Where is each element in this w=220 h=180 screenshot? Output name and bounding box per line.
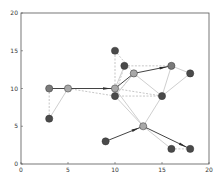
graph-node (111, 92, 118, 99)
x-tick-label: 0 (19, 166, 23, 173)
graph-node (140, 123, 147, 130)
light-edge (49, 89, 68, 119)
graph-node (64, 85, 71, 92)
arrow-head-icon (179, 143, 187, 148)
light-edge (115, 96, 143, 126)
graph-node (168, 145, 175, 152)
graph-node (187, 70, 194, 77)
graph-node (46, 115, 53, 122)
graph-node (130, 70, 137, 77)
x-tick-label: 10 (111, 166, 119, 173)
light-edge (115, 73, 134, 96)
y-tick-label: 20 (10, 9, 18, 16)
x-tick-label: 20 (205, 166, 213, 173)
x-tick-label: 5 (66, 166, 70, 173)
dashed-edge (115, 89, 162, 97)
graph-node (111, 85, 118, 92)
nodes (46, 47, 194, 152)
arrow-head-icon (159, 67, 167, 70)
graph-node (102, 138, 109, 145)
light-edge (134, 73, 162, 96)
light-edge (162, 73, 190, 96)
light-edge (162, 66, 171, 96)
light-edges (49, 66, 190, 149)
graph-node (187, 145, 194, 152)
y-tick-label: 0 (14, 160, 18, 167)
graph-node (46, 85, 53, 92)
graph-node (168, 62, 175, 69)
y-tick-label: 15 (10, 47, 18, 54)
light-edge (115, 89, 143, 127)
arrow-head-icon (132, 128, 140, 132)
light-edge (143, 96, 162, 126)
graph-node (158, 92, 165, 99)
y-tick-label: 10 (10, 85, 18, 92)
x-tick-label: 15 (158, 166, 166, 173)
network-chart: 05101520 05101520 (0, 0, 220, 180)
dashed-edge (68, 89, 115, 97)
graph-node (111, 47, 118, 54)
y-tick-label: 5 (14, 122, 18, 129)
graph-node (121, 62, 128, 69)
arrow-head-icon (103, 87, 111, 90)
